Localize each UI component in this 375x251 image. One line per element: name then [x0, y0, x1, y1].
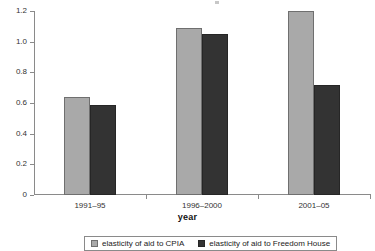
y-axis-tick-label: 0.4	[16, 130, 27, 138]
x-axis-category-label: 1991–95	[74, 201, 105, 210]
legend-item-cpia: elasticity of aid to CPIA	[91, 239, 184, 248]
y-axis-tick-label: 1.2	[16, 7, 27, 15]
cropped-title-artifact	[215, 1, 219, 4]
legend-label-freedom-house: elasticity of aid to Freedom House	[209, 239, 330, 248]
legend-swatch-icon-freedom-house	[198, 240, 205, 247]
bar-cpia	[64, 97, 90, 195]
chart-legend: elasticity of aid to CPIA elasticity of …	[84, 236, 337, 251]
bar-freedom-house	[314, 85, 340, 195]
y-axis-tick-mark	[30, 103, 34, 104]
y-axis-tick-label: 1.0	[16, 38, 27, 46]
legend-label-cpia: elasticity of aid to CPIA	[102, 239, 184, 248]
x-axis-separator-tick	[146, 194, 147, 199]
y-axis-tick-label: 0	[23, 191, 27, 199]
y-axis-tick-mark	[30, 72, 34, 73]
y-axis-tick-mark	[30, 11, 34, 12]
bar-freedom-house	[90, 105, 116, 195]
legend-item-freedom-house: elasticity of aid to Freedom House	[198, 239, 330, 248]
x-axis-category-label: 1996–2000	[182, 201, 222, 210]
y-axis-tick-label: 0.6	[16, 99, 27, 107]
x-axis-category-label: 2001–05	[298, 201, 329, 210]
y-axis-tick-mark	[30, 134, 34, 135]
x-axis-separator-tick	[258, 194, 259, 199]
y-axis-tick-label: 0.8	[16, 68, 27, 76]
bar-cpia	[288, 11, 314, 195]
bar-cpia	[176, 28, 202, 195]
bar-chart: 00.20.40.60.81.01.2 year elasticity of a…	[0, 0, 375, 251]
y-axis-tick-mark	[30, 42, 34, 43]
y-axis-tick-mark	[30, 164, 34, 165]
bar-freedom-house	[202, 34, 228, 195]
x-axis-separator-tick	[370, 194, 371, 199]
plot-area: 00.20.40.60.81.01.2	[34, 11, 370, 195]
x-axis-title: year	[0, 212, 375, 222]
y-axis-tick-label: 0.2	[16, 160, 27, 168]
y-axis-tick-mark	[30, 195, 34, 196]
legend-swatch-icon-cpia	[91, 240, 98, 247]
